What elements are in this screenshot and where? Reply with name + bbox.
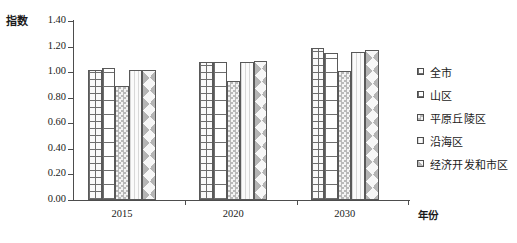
bar-沿海区-2015 bbox=[129, 70, 143, 200]
x-axis-title: 年份 bbox=[418, 207, 438, 222]
bar-山区-2020 bbox=[213, 62, 227, 200]
legend-swatch-icon bbox=[417, 91, 424, 98]
x-tick-mark bbox=[185, 200, 186, 205]
plot-area bbox=[74, 21, 408, 200]
y-tick-mark bbox=[68, 98, 73, 99]
y-tick-label: 0.40 bbox=[48, 143, 66, 153]
y-tick-mark bbox=[68, 47, 73, 48]
bar-全市-2015 bbox=[88, 70, 102, 200]
x-tick-label-2030: 2030 bbox=[315, 208, 375, 219]
legend-item-沿海区[interactable]: 沿海区 bbox=[417, 129, 517, 152]
legend-item-经济开发和市区[interactable]: 经济开发和市区 bbox=[417, 152, 517, 175]
bar-chart: 指数 0.000.200.400.600.801.001.201.40 2015… bbox=[0, 0, 517, 243]
bar-沿海区-2030 bbox=[351, 52, 365, 200]
bar-山区-2015 bbox=[102, 68, 116, 200]
legend-swatch-icon bbox=[417, 68, 424, 75]
y-tick-label: 0.80 bbox=[48, 92, 66, 102]
y-tick-label: 1.40 bbox=[48, 15, 66, 25]
legend-item-label: 山区 bbox=[430, 87, 452, 103]
y-tick-mark bbox=[68, 149, 73, 150]
y-tick-label: 0.60 bbox=[48, 117, 66, 127]
y-tick-mark bbox=[68, 174, 73, 175]
bar-平原丘陵区-2015 bbox=[115, 86, 129, 200]
legend-item-平原丘陵区[interactable]: 平原丘陵区 bbox=[417, 106, 517, 129]
y-axis-title: 指数 bbox=[6, 12, 28, 28]
bar-沿海区-2020 bbox=[240, 62, 254, 200]
bar-山区-2030 bbox=[324, 53, 338, 200]
bar-经济开发和市区-2030 bbox=[365, 50, 379, 200]
x-tick-label-2020: 2020 bbox=[203, 208, 263, 219]
x-tick-mark bbox=[408, 200, 409, 205]
bar-平原丘陵区-2030 bbox=[338, 71, 352, 200]
x-tick-mark bbox=[297, 200, 298, 205]
y-tick-label: 1.20 bbox=[48, 41, 66, 51]
y-tick-label: 0.20 bbox=[48, 168, 66, 178]
bar-全市-2020 bbox=[199, 62, 213, 200]
legend-item-label: 平原丘陵区 bbox=[430, 110, 486, 126]
chart-legend: 全市山区平原丘陵区沿海区经济开发和市区 bbox=[417, 60, 517, 175]
bar-全市-2030 bbox=[311, 48, 325, 200]
y-tick-mark bbox=[68, 123, 73, 124]
y-tick-mark bbox=[68, 72, 73, 73]
legend-item-山区[interactable]: 山区 bbox=[417, 83, 517, 106]
legend-swatch-icon bbox=[417, 114, 424, 121]
y-tick-mark bbox=[68, 21, 73, 22]
bar-经济开发和市区-2015 bbox=[142, 70, 156, 200]
y-tick-label: 1.00 bbox=[48, 66, 66, 76]
legend-item-全市[interactable]: 全市 bbox=[417, 60, 517, 83]
bar-平原丘陵区-2020 bbox=[227, 81, 241, 200]
legend-swatch-icon bbox=[417, 137, 424, 144]
x-axis-line bbox=[73, 200, 410, 201]
x-tick-label-2015: 2015 bbox=[92, 208, 152, 219]
legend-item-label: 经济开发和市区 bbox=[430, 156, 508, 172]
legend-swatch-icon bbox=[417, 160, 424, 167]
legend-item-label: 全市 bbox=[430, 64, 452, 80]
y-tick-mark bbox=[68, 200, 73, 201]
bar-经济开发和市区-2020 bbox=[254, 61, 268, 200]
legend-item-label: 沿海区 bbox=[430, 133, 464, 149]
y-tick-label: 0.00 bbox=[48, 194, 66, 204]
